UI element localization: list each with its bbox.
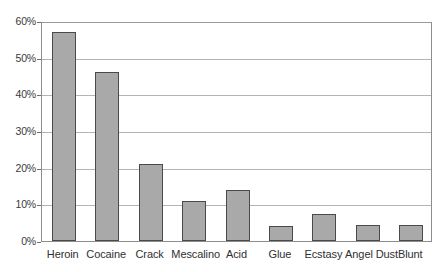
x-axis-label-blunt: Blunt [389, 248, 432, 260]
plot-area [41, 22, 432, 242]
bar-blunt [399, 225, 423, 242]
bar-glue [269, 226, 293, 241]
x-axis-label-crack: Crack [128, 248, 171, 260]
bar-cocaine [95, 72, 119, 241]
x-axis-label-mescalino: Mescalino [171, 248, 214, 260]
bar-crack [139, 164, 163, 241]
bar-angel-dust [356, 225, 380, 242]
bar-acid [226, 190, 250, 241]
bar-mescalino [182, 201, 206, 241]
y-axis-tick-label: 50% [0, 52, 36, 64]
bar-heroin [52, 32, 76, 241]
x-axis-label-cocaine: Cocaine [84, 248, 127, 260]
x-axis-label-glue: Glue [258, 248, 301, 260]
y-axis-tick-label: 40% [0, 88, 36, 100]
x-axis-label-acid: Acid [215, 248, 258, 260]
y-axis-tick-label: 20% [0, 162, 36, 174]
y-axis-tick-label: 10% [0, 198, 36, 210]
bar-chart-figure: 0%10%20%30%40%50%60% HeroinCocaineCrackM… [0, 0, 447, 272]
x-axis-label-angel-dust: Angel Dust [345, 248, 388, 260]
bar-ecstasy [312, 214, 336, 242]
x-axis-label-heroin: Heroin [41, 248, 84, 260]
y-axis-tick-label: 0% [0, 235, 36, 247]
y-axis-tick-label: 30% [0, 125, 36, 137]
gridline [42, 59, 431, 60]
x-axis-label-ecstasy: Ecstasy [302, 248, 345, 260]
y-axis-tick-mark [37, 242, 41, 243]
y-axis-tick-label: 60% [0, 15, 36, 27]
